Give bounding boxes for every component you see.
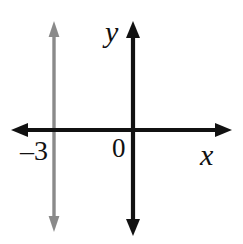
coordinate-plane-figure: y x –3 0: [0, 0, 243, 244]
y-axis-label: y: [105, 17, 118, 47]
graph-canvas: [0, 0, 243, 244]
figure-background: [0, 0, 243, 244]
x-axis-label: x: [200, 140, 213, 170]
x-intercept-label: –3: [20, 137, 48, 165]
origin-label: 0: [112, 135, 126, 162]
